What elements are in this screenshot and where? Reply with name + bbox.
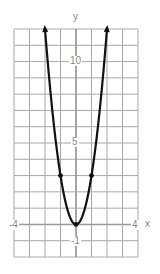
y-axis-label: y	[72, 12, 79, 22]
data-point	[74, 222, 79, 227]
data-point	[58, 173, 63, 178]
y-tick-label-5: 5	[71, 137, 79, 147]
x-tick-label-4: 4	[131, 220, 139, 230]
y-tick-label-neg1: -1	[70, 236, 81, 246]
parabola-graph	[0, 0, 160, 274]
x-tick-label-neg4: -4	[8, 220, 19, 230]
y-tick-label-10: 10	[69, 56, 82, 66]
x-axis-label: x	[144, 219, 151, 229]
data-point	[89, 173, 94, 178]
